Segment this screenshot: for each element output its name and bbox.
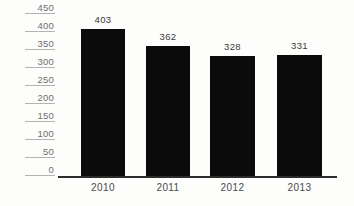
y-axis-tick-label: 100: [38, 129, 54, 139]
y-axis-tick-label: 150: [38, 111, 54, 121]
x-axis-category-label: 2013: [269, 182, 330, 193]
bar-group: 328 2012: [210, 0, 255, 206]
y-axis-tick-line: [25, 157, 55, 158]
bar[interactable]: [277, 55, 322, 176]
y-axis-tick-line: [25, 67, 55, 68]
bar-chart: 450 400 350 300 250 200 150 100: [0, 0, 354, 206]
y-axis-tick-line: [25, 139, 55, 140]
y-axis-tick-label: 50: [43, 147, 54, 157]
y-axis-tick-label: 250: [38, 75, 54, 85]
y-axis-tick-label: 350: [38, 39, 54, 49]
y-axis-tick-label: 400: [38, 21, 54, 31]
x-axis-category-label: 2011: [138, 182, 198, 193]
y-axis-tick-line: [25, 121, 55, 122]
bar-value-label: 331: [277, 40, 322, 51]
y-axis-tick-label: 0: [49, 165, 54, 175]
x-axis-category-label: 2012: [202, 182, 263, 193]
bar-group: 403 2010: [81, 0, 125, 206]
bar-value-label: 328: [210, 41, 255, 52]
y-axis: 450 400 350 300 250 200 150 100: [0, 0, 58, 206]
bar-group: 331 2013: [277, 0, 322, 206]
y-axis-tick-label: 450: [38, 3, 54, 13]
y-axis-tick-line: [25, 49, 55, 50]
bar-value-label: 362: [146, 31, 190, 42]
y-axis-tick-line: [25, 103, 55, 104]
bar[interactable]: [146, 46, 190, 176]
bar-value-label: 403: [81, 14, 125, 25]
y-axis-tick-label: 200: [38, 93, 54, 103]
y-axis-tick-line: [25, 175, 55, 176]
plot-area: 403 2010 362 2011 328 2012 331 2013: [58, 0, 354, 206]
y-axis-tick-line: [25, 13, 55, 14]
bar[interactable]: [81, 29, 125, 176]
bar[interactable]: [210, 56, 255, 176]
y-axis-tick-label: 300: [38, 57, 54, 67]
x-axis-category-label: 2010: [73, 182, 133, 193]
y-axis-tick-line: [25, 31, 55, 32]
y-axis-tick-line: [25, 85, 55, 86]
bar-group: 362 2011: [146, 0, 190, 206]
